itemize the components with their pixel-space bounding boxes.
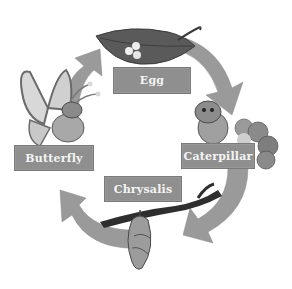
butterfly-character-icon — [21, 70, 101, 146]
stage-label-chrysalis: Chrysalis — [104, 176, 182, 202]
life-cycle-diagram: Egg Caterpillar Chrysalis Butterfly — [0, 0, 292, 289]
stage-label-butterfly: Butterfly — [14, 145, 94, 171]
stage-label-egg: Egg — [113, 67, 191, 94]
stage-label-caterpillar: Caterpillar — [181, 143, 255, 169]
leaf-with-eggs-icon — [96, 27, 201, 64]
